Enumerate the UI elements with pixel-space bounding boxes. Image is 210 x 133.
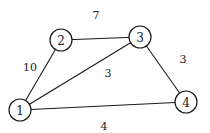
edge-weight-1-4: 4 (101, 120, 108, 133)
edge-weight-2-3: 7 (93, 9, 100, 22)
node-label: 1 (16, 104, 24, 118)
nodes-layer: 1234 (9, 26, 197, 121)
edge-3-4 (140, 37, 186, 102)
edge-weight-1-2: 10 (23, 61, 37, 74)
edges-layer (20, 37, 186, 110)
node-3: 3 (129, 26, 151, 48)
edge-weight-1-3: 3 (105, 67, 112, 80)
node-4: 4 (175, 91, 197, 113)
node-label: 3 (136, 31, 144, 45)
node-2: 2 (50, 29, 72, 51)
node-label: 4 (182, 96, 190, 110)
edge-weight-3-4: 3 (180, 53, 187, 66)
edge-weights-layer: 107334 (23, 9, 187, 133)
node-label: 2 (57, 34, 65, 48)
node-1: 1 (9, 99, 31, 121)
weighted-graph-diagram: 107334 1234 (0, 0, 210, 132)
edge-2-3 (61, 37, 140, 40)
edge-1-2 (20, 40, 61, 110)
edge-1-4 (20, 102, 186, 110)
edge-1-3 (20, 37, 140, 110)
